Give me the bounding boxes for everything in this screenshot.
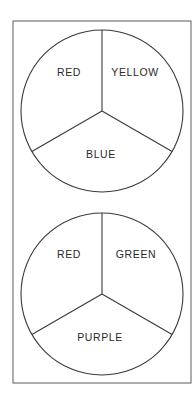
bottom-wheel: RED GREEN PURPLE <box>21 213 183 375</box>
diagram-canvas: RED YELLOW BLUE RED GREEN PURPLE <box>0 0 195 398</box>
bottom-wheel-label-purple: PURPLE <box>77 331 123 343</box>
top-wheel-label-red: RED <box>57 66 81 78</box>
top-wheel-label-yellow: YELLOW <box>111 66 158 78</box>
bottom-wheel-label-red: RED <box>57 248 81 260</box>
top-wheel-label-blue: BLUE <box>86 148 116 160</box>
bottom-wheel-label-green: GREEN <box>116 248 156 260</box>
top-wheel: RED YELLOW BLUE <box>21 30 183 192</box>
